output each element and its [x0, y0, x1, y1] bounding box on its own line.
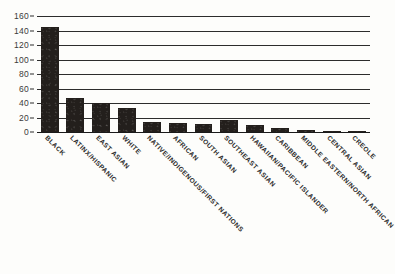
y-tick-label-160: 160 [14, 11, 29, 21]
y-tick-label-120: 120 [14, 40, 29, 50]
y-tick-label-0: 0 [24, 127, 29, 137]
x-tick-label: NATIVE/INDIGENOUS/FIRST NATIONS [146, 134, 245, 233]
x-tick-label: MIDDLE EASTERN/NORTH AFRICAN [300, 134, 395, 229]
y-tick-label-100: 100 [14, 55, 29, 65]
x-tick-label: LATINX/HISPANIC [69, 134, 118, 183]
y-tick-label-140: 140 [14, 26, 29, 36]
y-tick-mark-120 [30, 45, 34, 46]
y-tick-mark-0 [30, 132, 34, 133]
x-tick-label: WHITE [121, 134, 143, 156]
x-tick-label: SOUTHEAST ASIAN [223, 134, 277, 188]
y-tick-label-20: 20 [19, 113, 29, 123]
y-tick-mark-100 [30, 59, 34, 60]
bar [66, 98, 84, 132]
gridline-0 [37, 132, 370, 133]
y-tick-mark-40 [30, 103, 34, 104]
bar [297, 130, 315, 132]
bar [143, 122, 161, 132]
y-axis: 020406080100120140160 [0, 16, 34, 132]
y-tick-mark-160 [30, 16, 34, 17]
y-tick-mark-20 [30, 117, 34, 118]
bar [348, 131, 366, 132]
x-tick-label: CREOLE [351, 134, 377, 160]
y-tick-label-60: 60 [19, 84, 29, 94]
x-tick-label: BLACK [44, 134, 67, 157]
bar [118, 108, 136, 132]
plot-area [37, 16, 370, 132]
bar [195, 124, 213, 132]
bar [246, 125, 264, 132]
bar [169, 123, 187, 132]
x-tick-label: AFRICAN [172, 134, 200, 162]
x-tick-label: CENTRAL ASIAN [326, 134, 373, 181]
y-tick-mark-80 [30, 74, 34, 75]
bar [323, 131, 341, 132]
y-tick-label-40: 40 [19, 98, 29, 108]
y-tick-label-80: 80 [19, 69, 29, 79]
x-axis: BLACKLATINX/HISPANICEAST ASIANWHITENATIV… [37, 134, 370, 274]
bar [92, 103, 110, 132]
bar [41, 27, 59, 132]
y-tick-mark-140 [30, 30, 34, 31]
y-tick-mark-60 [30, 88, 34, 89]
bar [271, 128, 289, 132]
bar-series [37, 16, 370, 132]
bar [220, 120, 238, 132]
